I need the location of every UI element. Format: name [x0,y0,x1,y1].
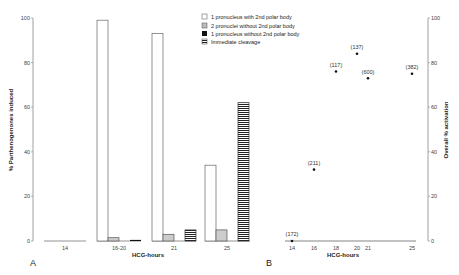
legend-item-2: 2 pronuclei without 2nd polar body [211,23,295,29]
cat-25: 25 [224,245,230,251]
bar-21-gray [163,234,174,241]
rtick-0: 0 [431,238,434,244]
panel-b-chart: 0 20 40 60 80 100 Overall % activation 1… [266,15,449,268]
x-axis-label-b: HCG-hours [327,252,360,258]
bar-16-20-black [130,240,141,241]
tick-100: 100 [21,15,30,21]
tick-60: 60 [24,104,30,110]
bar-21-white [152,34,163,241]
rtick-20: 20 [431,193,437,199]
legend: 1 pronucleus with 2nd polar body 2 pronu… [202,14,300,45]
xtick-20: 20 [354,245,360,251]
rtick-100: 100 [431,15,440,21]
point-label-21: (600) [362,69,375,75]
bar-25-white [205,165,216,241]
point-label-25: (382) [406,64,419,70]
bar-21-striped [185,230,196,241]
xtick-25: 25 [409,245,415,251]
point-label-18: (117) [330,62,343,68]
rtick-40: 40 [431,149,437,155]
y-axis-label-a: % Parthenogenones induced [8,89,14,172]
xtick-21: 21 [365,245,371,251]
tick-40: 40 [24,149,30,155]
xtick-14: 14 [289,245,295,251]
tick-0: 0 [27,238,30,244]
cat-14: 14 [62,245,68,251]
panel-label-b: B [266,258,272,268]
panel-a-chart: 0 20 40 60 80 100 % Parthenogenones indu… [8,15,250,268]
point-label-16: (211) [308,160,321,166]
xtick-18: 18 [333,245,339,251]
cat-16-20: 16-20 [112,245,126,251]
xtick-16: 16 [311,245,317,251]
legend-item-1: 1 pronucleus with 2nd polar body [211,14,292,20]
bottom-x-ticks: 14 16 18 20 21 25 [289,245,415,251]
figure: 0 20 40 60 80 100 % Parthenogenones indu… [0,0,459,275]
bar-25-striped [238,103,249,241]
data-points: (172) (211) (117) (137) (600) (382) [286,44,419,242]
point-label-20: (137) [351,44,364,50]
rtick-60: 60 [431,104,437,110]
bar-25-gray [216,230,227,241]
panel-label-a: A [30,258,36,268]
right-y-ticks: 0 20 40 60 80 100 [428,15,440,244]
bar-16-20-gray [108,238,119,241]
left-y-ticks: 0 20 40 60 80 100 [21,15,33,244]
x-axis-label-a: HCG-hours [132,252,165,258]
point-label-14: (172) [286,231,299,237]
legend-item-4: Immediate cleavage [211,39,260,45]
rtick-80: 80 [431,60,437,66]
y-axis-label-b: Overall % activation [443,101,449,158]
tick-20: 20 [24,193,30,199]
legend-item-3: 1 pronucleus without 2nd polar body [211,31,300,37]
tick-80: 80 [24,60,30,66]
cat-21: 21 [171,245,177,251]
bar-16-20-white [97,20,108,241]
